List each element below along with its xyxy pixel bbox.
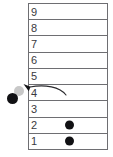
slot-label: 8 bbox=[31, 22, 37, 33]
diagram-canvas: 9 8 7 6 5 4 3 2 1 bbox=[0, 0, 113, 157]
slot-row[interactable]: 2 bbox=[29, 118, 107, 134]
slot-row[interactable]: 1 bbox=[29, 134, 107, 149]
ejected-token-icon bbox=[7, 93, 18, 104]
slot-label: 9 bbox=[31, 6, 37, 17]
slot-row[interactable]: 5 bbox=[29, 69, 107, 85]
slot-row[interactable]: 8 bbox=[29, 20, 107, 36]
slot-label: 6 bbox=[31, 55, 37, 66]
slot-label: 2 bbox=[31, 120, 37, 131]
slot-label: 3 bbox=[31, 103, 37, 114]
slot-row[interactable]: 6 bbox=[29, 53, 107, 69]
slot-label: 5 bbox=[31, 71, 37, 82]
slot-row[interactable]: 7 bbox=[29, 36, 107, 52]
slot-token bbox=[65, 121, 74, 130]
slot-token bbox=[65, 137, 74, 146]
slot-label: 7 bbox=[31, 39, 37, 50]
slot-label: 4 bbox=[31, 87, 37, 98]
slot-label: 1 bbox=[31, 136, 37, 147]
slot-row[interactable]: 3 bbox=[29, 101, 107, 117]
slot-row[interactable]: 4 bbox=[29, 85, 107, 101]
numbered-slot-column: 9 8 7 6 5 4 3 2 1 bbox=[28, 3, 108, 150]
slot-row[interactable]: 9 bbox=[29, 4, 107, 20]
